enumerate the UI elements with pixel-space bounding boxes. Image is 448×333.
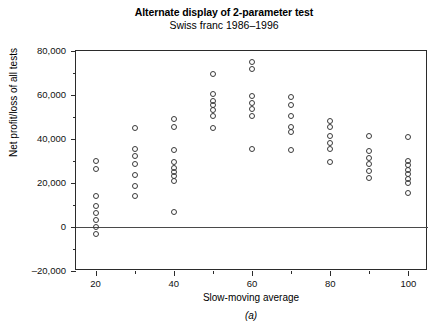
y-axis-tick: [71, 271, 76, 272]
scatter-point: [93, 210, 99, 216]
y-axis-tick-label: –20,000: [4, 266, 66, 276]
x-axis-tick: [96, 271, 97, 276]
scatter-point: [132, 153, 138, 159]
scatter-point: [249, 106, 255, 112]
scatter-point: [288, 102, 294, 108]
x-axis-minor-tick: [369, 271, 370, 274]
scatter-point: [132, 125, 138, 131]
y-axis-minor-tick: [73, 249, 76, 250]
scatter-point: [327, 159, 333, 165]
x-axis-tick: [408, 271, 409, 276]
x-axis-tick: [252, 271, 253, 276]
scatter-point: [288, 129, 294, 135]
scatter-point: [366, 148, 372, 154]
scatter-point: [366, 155, 372, 161]
x-axis-tick-label: 20: [76, 279, 116, 289]
scatter-point: [132, 146, 138, 152]
y-axis-title: Net profit/loss of all tests: [8, 0, 19, 213]
x-axis-minor-tick: [135, 271, 136, 274]
scatter-point: [171, 116, 177, 122]
scatter-point: [93, 203, 99, 209]
y-axis-minor-tick: [73, 161, 76, 162]
scatter-point: [249, 93, 255, 99]
y-axis-minor-tick: [73, 117, 76, 118]
scatter-point: [132, 193, 138, 199]
figure-panel-a: Alternate display of 2-parameter test Sw…: [0, 0, 448, 333]
scatter-point: [210, 125, 216, 131]
scatter-point: [366, 168, 372, 174]
y-axis-tick: [71, 183, 76, 184]
x-axis-tick-label: 80: [310, 279, 350, 289]
scatter-point: [405, 180, 411, 186]
scatter-point: [93, 231, 99, 237]
y-axis-minor-tick: [73, 73, 76, 74]
scatter-point: [327, 124, 333, 130]
page-title: Alternate display of 2-parameter test: [0, 6, 448, 19]
scatter-point: [249, 59, 255, 65]
scatter-point: [132, 183, 138, 189]
title-block: Alternate display of 2-parameter test Sw…: [0, 6, 448, 32]
y-axis-minor-tick: [73, 205, 76, 206]
scatter-point: [288, 147, 294, 153]
scatter-point: [249, 66, 255, 72]
scatter-point: [132, 172, 138, 178]
x-axis-minor-tick: [213, 271, 214, 274]
scatter-point: [93, 193, 99, 199]
x-axis-tick-label: 40: [154, 279, 194, 289]
y-axis-tick: [71, 227, 76, 228]
y-axis-tick: [71, 139, 76, 140]
scatter-point: [93, 166, 99, 172]
scatter-point: [327, 133, 333, 139]
x-axis-title: Slow-moving average: [75, 292, 427, 303]
chart-subtitle: Swiss franc 1986–1996: [0, 19, 448, 32]
scatter-point: [171, 147, 177, 153]
scatter-point: [288, 94, 294, 100]
scatter-point: [171, 124, 177, 130]
scatter-point: [249, 100, 255, 106]
scatter-point: [171, 209, 177, 215]
scatter-point: [93, 158, 99, 164]
zero-reference-line: [76, 227, 428, 228]
scatter-point: [366, 161, 372, 167]
y-axis-tick-label: 0: [4, 222, 66, 232]
scatter-point: [171, 178, 177, 184]
x-axis-minor-tick: [291, 271, 292, 274]
y-axis-tick: [71, 95, 76, 96]
scatter-point: [366, 133, 372, 139]
scatter-point: [288, 113, 294, 119]
scatter-point: [210, 113, 216, 119]
scatter-point: [132, 161, 138, 167]
scatter-point: [405, 134, 411, 140]
x-axis-tick: [174, 271, 175, 276]
plot-area: –20,000020,00040,00060,00080,00020406080…: [75, 50, 427, 270]
x-axis-tick: [330, 271, 331, 276]
scatter-point: [366, 175, 372, 181]
scatter-point: [93, 217, 99, 223]
x-axis-tick-label: 100: [388, 279, 428, 289]
scatter-point: [327, 146, 333, 152]
scatter-point: [249, 146, 255, 152]
scatter-point: [210, 91, 216, 97]
panel-caption: (a): [75, 310, 427, 321]
x-axis-tick-label: 60: [232, 279, 272, 289]
scatter-point: [249, 113, 255, 119]
scatter-point: [93, 224, 99, 230]
scatter-point: [405, 190, 411, 196]
y-axis-tick: [71, 51, 76, 52]
scatter-point: [210, 71, 216, 77]
